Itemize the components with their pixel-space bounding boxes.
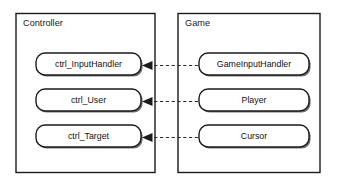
group-game-label: Game — [185, 18, 210, 28]
node-gameinputhandler[interactable]: GameInputHandler — [199, 53, 311, 77]
node-label: ctrl_InputHandler — [55, 59, 122, 69]
node-label: Player — [242, 95, 267, 105]
node-ctrl-user[interactable]: ctrl_User — [36, 89, 143, 113]
node-label: Cursor — [241, 131, 267, 141]
block-diagram: Controller Game ctrl_InputHandler — [0, 0, 340, 187]
node-label: ctrl_Target — [68, 131, 110, 141]
diagram-canvas: Controller Game ctrl_InputHandler — [0, 0, 340, 187]
node-label: GameInputHandler — [217, 59, 291, 69]
node-cursor[interactable]: Cursor — [199, 125, 311, 149]
node-label: ctrl_User — [71, 95, 106, 105]
group-controller-label: Controller — [23, 18, 63, 28]
node-player[interactable]: Player — [199, 89, 311, 113]
node-ctrl-inputhandler[interactable]: ctrl_InputHandler — [36, 53, 143, 77]
node-ctrl-target[interactable]: ctrl_Target — [36, 125, 143, 149]
